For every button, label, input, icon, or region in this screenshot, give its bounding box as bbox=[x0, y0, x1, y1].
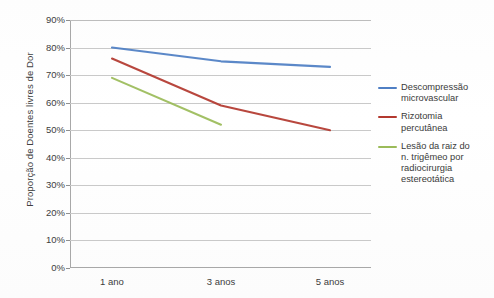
x-axis-tick-label: 1 ano bbox=[77, 276, 147, 287]
legend-label: Rizotomia percutânea bbox=[401, 111, 448, 133]
legend-entry: Descompressão microvascular bbox=[378, 82, 490, 104]
y-axis-tick-label: 80% bbox=[25, 42, 65, 53]
x-axis-tick-label: 5 anos bbox=[295, 276, 365, 287]
x-axis-tick-label: 3 anos bbox=[186, 276, 256, 287]
y-axis-tick-label: 50% bbox=[25, 124, 65, 135]
legend-entry: Lesão da raiz do n. trigêmeo por radioci… bbox=[378, 141, 490, 186]
chart-legend: Descompressão microvascularRizotomia per… bbox=[378, 82, 490, 193]
legend-color-swatch bbox=[378, 87, 397, 89]
legend-label: Lesão da raiz do n. trigêmeo por radioci… bbox=[401, 141, 470, 186]
y-axis-tick-label: 40% bbox=[25, 152, 65, 163]
series-line bbox=[112, 78, 221, 125]
y-axis-tick-label: 70% bbox=[25, 69, 65, 80]
y-axis-tick bbox=[66, 268, 70, 269]
legend-color-swatch bbox=[378, 116, 397, 118]
series-line bbox=[112, 59, 330, 131]
series-lines bbox=[70, 20, 371, 268]
legend-color-swatch bbox=[378, 146, 397, 148]
y-axis-tick-label: 10% bbox=[25, 234, 65, 245]
y-axis-tick-label: 0% bbox=[25, 262, 65, 273]
series-line bbox=[112, 48, 330, 67]
y-axis-tick-label: 30% bbox=[25, 179, 65, 190]
legend-label: Descompressão microvascular bbox=[401, 82, 468, 104]
y-axis-tick-label: 90% bbox=[25, 14, 65, 25]
legend-entry: Rizotomia percutânea bbox=[378, 111, 490, 133]
chart-title bbox=[80, 0, 380, 3]
y-axis-tick-label: 20% bbox=[25, 207, 65, 218]
line-chart: Proporção de Doentes livres de Dor 90%80… bbox=[0, 0, 494, 298]
plot-area: 90%80%70%60%50%40%30%20%10%0% 1 ano3 ano… bbox=[70, 20, 371, 268]
y-axis-tick-label: 60% bbox=[25, 97, 65, 108]
